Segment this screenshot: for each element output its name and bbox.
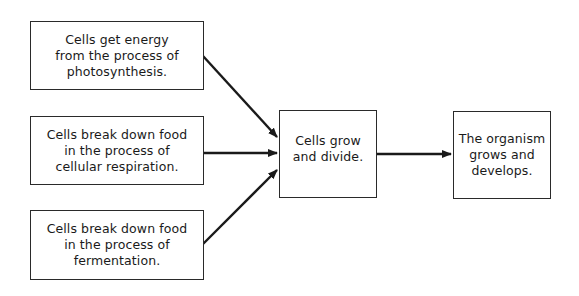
node-photosynthesis-text: Cells get energy from the process of pho… [55,32,179,80]
arrow-fermentation-to-grow [203,170,277,244]
node-organism-text: The organism grows and develops. [459,131,546,179]
node-organism-grows: The organism grows and develops. [453,111,551,199]
node-grow-divide-text: Cells grow and divide. [293,133,363,165]
node-fermentation-text: Cells break down food in the process of … [47,221,188,269]
node-cellular-respiration: Cells break down food in the process of … [30,116,204,185]
arrow-photosynthesis-to-grow [203,56,277,137]
node-photosynthesis: Cells get energy from the process of pho… [30,21,204,90]
node-cells-grow-divide: Cells grow and divide. [279,110,377,198]
node-respiration-text: Cells break down food in the process of … [47,127,188,175]
node-fermentation: Cells break down food in the process of … [30,210,204,280]
